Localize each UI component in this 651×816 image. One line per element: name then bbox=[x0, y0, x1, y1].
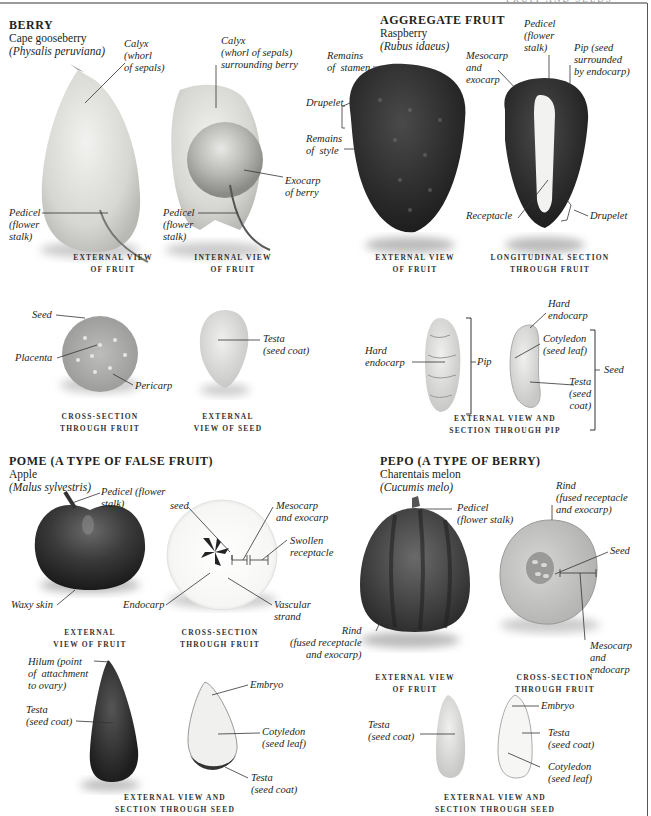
pepo-title: PEPO (A TYPE OF BERRY) bbox=[380, 455, 541, 468]
caption-pome-cross-section: CROSS-SECTION THROUGH FRUIT bbox=[165, 627, 275, 651]
label-embryo: Embryo bbox=[541, 700, 574, 712]
label-mesocarp-exocarp: Mesocarp and exocarp bbox=[466, 50, 508, 86]
berry-common-name: Cape gooseberry bbox=[9, 32, 87, 45]
right-rule bbox=[647, 3, 648, 816]
label-pip: Pip (seed surrounded by endocarp) bbox=[574, 42, 630, 78]
caption-berry-seed: EXTERNAL VIEW OF SEED bbox=[178, 411, 278, 435]
label-testa-section: Testa (seed coat) bbox=[251, 772, 297, 796]
label-testa-external: Testa (seed coat) bbox=[368, 719, 414, 743]
label-cotyledon: Cotyledon (seed leaf) bbox=[543, 333, 587, 357]
label-mesocarp-endocarp: Mesocarp and endocarp bbox=[590, 640, 632, 676]
label-pip-bracket: Pip bbox=[477, 356, 492, 368]
berry-scientific-name: (Physalis peruviana) bbox=[9, 45, 105, 58]
label-seed-bracket: Seed bbox=[604, 364, 624, 376]
label-testa: Testa (seed coat) bbox=[569, 376, 591, 412]
label-pedicel-external: Pedicel (flower stalk) bbox=[9, 207, 40, 243]
aggregate-scientific-name: (Rubus idaeus) bbox=[380, 40, 449, 53]
label-seed: Seed bbox=[610, 545, 630, 557]
caption-pepo-seed: EXTERNAL VIEW AND SECTION THROUGH SEED bbox=[425, 792, 565, 816]
label-receptacle: Receptacle bbox=[466, 210, 512, 222]
label-hard-endocarp-section: Hard endocarp bbox=[548, 298, 588, 322]
label-pedicel: Pedicel (flower stalk) bbox=[457, 502, 513, 526]
label-pericarp: Pericarp bbox=[135, 380, 172, 392]
pome-title: POME (A TYPE OF FALSE FRUIT) bbox=[9, 455, 213, 468]
label-swollen-receptacle: Swollen receptacle bbox=[290, 535, 333, 559]
caption-aggregate-external: EXTERNAL VIEW OF FRUIT bbox=[360, 252, 470, 276]
label-pedicel-internal: Pedicel (flower stalk) bbox=[163, 207, 194, 243]
label-placenta: Placenta bbox=[15, 352, 52, 364]
label-hard-endocarp-external: Hard endocarp bbox=[365, 345, 405, 369]
label-testa-section: Testa (seed coat) bbox=[548, 727, 594, 751]
label-testa: Testa (seed coat) bbox=[263, 333, 309, 357]
caption-pepo-external: EXTERNAL VIEW OF FRUIT bbox=[360, 672, 470, 696]
label-drupelet-section: Drupelet bbox=[590, 210, 627, 222]
label-mesocarp-exocarp: Mesocarp and exocarp bbox=[276, 500, 328, 524]
berry-title: BERRY bbox=[9, 19, 53, 32]
label-rind-external: Rind (fused receptacle and exocarp) bbox=[290, 625, 362, 661]
caption-aggregate-longitudinal: LONGITUDINAL SECTION THROUGH FRUIT bbox=[485, 252, 615, 276]
pome-scientific-name: (Malus sylvestris) bbox=[9, 481, 91, 494]
aggregate-common-name: Raspberry bbox=[380, 27, 427, 40]
label-seed: Seed bbox=[32, 309, 52, 321]
caption-pome-seed: EXTERNAL VIEW AND SECTION THROUGH SEED bbox=[105, 792, 245, 816]
label-calyx-external: Calyx (whorl of sepals) bbox=[124, 38, 165, 74]
label-remains-style: Remains of style bbox=[306, 133, 342, 157]
label-vascular-strand: Vascular strand bbox=[274, 599, 311, 623]
label-rind-top: Rind (fused receptacle and exocarp) bbox=[556, 480, 628, 516]
label-embryo: Embryo bbox=[250, 679, 283, 691]
label-pedicel: Pedicel (flower stalk) bbox=[101, 486, 165, 510]
caption-pepo-cross-section: CROSS-SECTION THROUGH FRUIT bbox=[500, 672, 610, 696]
caption-berry-cross-section: CROSS-SECTION THROUGH FRUIT bbox=[50, 411, 150, 435]
label-pedicel: Pedicel (flower stalk) bbox=[524, 18, 555, 54]
label-seed: seed bbox=[170, 500, 189, 512]
label-waxy-skin: Waxy skin bbox=[11, 599, 53, 611]
label-remains-stamen: Remains of stamen bbox=[327, 50, 370, 74]
caption-berry-internal: INTERNAL VIEW OF FRUIT bbox=[178, 252, 288, 276]
pepo-common-name: Charentais melon bbox=[380, 468, 461, 481]
caption-berry-external: EXTERNAL VIEW OF FRUIT bbox=[58, 252, 168, 276]
label-cotyledon: Cotyledon (seed leaf) bbox=[548, 761, 592, 785]
pepo-scientific-name: (Cucumis melo) bbox=[380, 481, 453, 494]
label-drupelet-external: Drupelet bbox=[306, 97, 343, 109]
label-calyx-internal: Calyx (whorl of sepals) surrounding berr… bbox=[221, 35, 298, 71]
label-cotyledon: Cotyledon (seed leaf) bbox=[262, 726, 306, 750]
running-head: FRUIT AND SEEDS bbox=[506, 0, 613, 4]
aggregate-title: AGGREGATE FRUIT bbox=[380, 14, 505, 27]
caption-pome-external: EXTERNAL VIEW OF FRUIT bbox=[35, 627, 145, 651]
caption-aggregate-pip: EXTERNAL VIEW AND SECTION THROUGH PIP bbox=[440, 413, 570, 437]
label-hilum: Hilum (point of attachment to ovary) bbox=[28, 656, 88, 692]
label-endocarp: Endocarp bbox=[123, 599, 164, 611]
label-exocarp: Exocarp of berry bbox=[285, 175, 321, 199]
label-testa-external: Testa (seed coat) bbox=[26, 704, 72, 728]
pome-common-name: Apple bbox=[9, 468, 37, 481]
